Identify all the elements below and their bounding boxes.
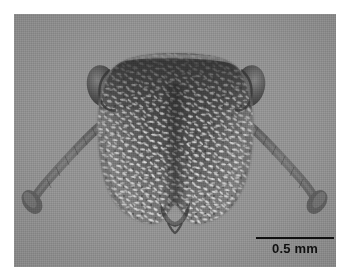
scale-bar-label: 0.5 mm — [255, 242, 335, 256]
scale-bar-line — [256, 237, 334, 239]
ant-head-illustration — [14, 14, 336, 267]
figure-root: 0.5 mm — [0, 0, 348, 280]
scale-bar: 0.5 mm — [255, 237, 335, 267]
specimen-stage — [14, 14, 336, 267]
micrograph-image: 0.5 mm — [14, 14, 336, 267]
